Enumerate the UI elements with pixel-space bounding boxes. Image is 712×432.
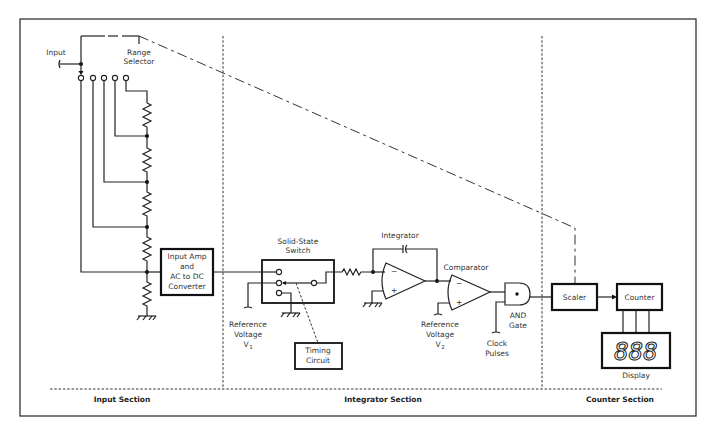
svg-text:+: + bbox=[391, 286, 397, 295]
display-digits: 888 bbox=[614, 338, 657, 366]
svg-text:Voltage: Voltage bbox=[426, 330, 455, 339]
section-label-counter: Counter Section bbox=[586, 395, 654, 404]
divider-resistor-2 bbox=[143, 136, 151, 182]
svg-text:Gate: Gate bbox=[509, 321, 527, 330]
solid-state-switch: Solid-State Switch bbox=[244, 237, 334, 317]
svg-text:Converter: Converter bbox=[168, 282, 206, 291]
svg-text:Reference: Reference bbox=[421, 320, 459, 329]
counter-block: Counter bbox=[617, 284, 662, 310]
svg-text:Clock: Clock bbox=[487, 339, 508, 348]
ground-icon bbox=[363, 303, 382, 307]
svg-text:Timing: Timing bbox=[304, 346, 331, 355]
svg-text:Circuit: Circuit bbox=[306, 356, 330, 365]
reference-voltage-v1: Reference Voltage V 1 bbox=[229, 320, 267, 350]
svg-text:−: − bbox=[456, 279, 462, 288]
svg-text:Display: Display bbox=[622, 371, 650, 380]
svg-text:Comparator: Comparator bbox=[444, 263, 490, 272]
input-terminal: Input bbox=[46, 48, 83, 68]
input-label: Input bbox=[46, 48, 65, 57]
range-contact-2 bbox=[90, 75, 95, 80]
integrator-opamp: Integrator − + bbox=[363, 231, 439, 307]
range-selector-label-2: Selector bbox=[124, 57, 156, 66]
divider-resistor-1 bbox=[143, 103, 151, 136]
svg-text:Counter: Counter bbox=[625, 293, 656, 302]
range-selector: Range Selector bbox=[78, 36, 155, 81]
svg-text:Pulses: Pulses bbox=[485, 349, 509, 358]
svg-text:2: 2 bbox=[441, 344, 445, 350]
ground-icon bbox=[137, 316, 156, 320]
svg-text:1: 1 bbox=[249, 344, 253, 350]
svg-text:Input Amp: Input Amp bbox=[167, 252, 206, 261]
svg-text:Reference: Reference bbox=[229, 320, 267, 329]
range-selector-label-1: Range bbox=[127, 48, 151, 57]
svg-text:−: − bbox=[391, 267, 397, 276]
diagram-frame bbox=[20, 19, 696, 416]
svg-text:AND: AND bbox=[510, 311, 527, 320]
voltage-divider bbox=[81, 81, 156, 320]
input-amp-block: Input Amp and AC to DC Converter bbox=[147, 249, 213, 295]
svg-text:Solid-State: Solid-State bbox=[278, 237, 319, 246]
dmm-block-diagram: Input Section Integrator Section Counter… bbox=[0, 0, 712, 432]
section-dividers bbox=[50, 36, 662, 389]
svg-text:AC to DC: AC to DC bbox=[170, 272, 204, 281]
svg-text:Switch: Switch bbox=[286, 246, 311, 255]
section-label-integrator: Integrator Section bbox=[344, 395, 422, 404]
comparator: Comparator − + Reference Voltage V 2 bbox=[421, 263, 505, 350]
display-block: 888 Display bbox=[602, 333, 670, 380]
scaler-block: Scaler bbox=[552, 284, 597, 310]
divider-resistor-4 bbox=[143, 227, 151, 272]
svg-text:+: + bbox=[456, 298, 462, 307]
range-contact-4 bbox=[112, 75, 117, 80]
svg-text:and: and bbox=[180, 262, 194, 271]
integrator-input-resistor bbox=[334, 269, 373, 275]
divider-resistor-3 bbox=[143, 182, 151, 227]
svg-text:Integrator: Integrator bbox=[381, 231, 419, 240]
range-contact-5 bbox=[123, 75, 128, 80]
divider-resistor-5 bbox=[143, 272, 151, 316]
range-contact-1 bbox=[78, 75, 83, 80]
section-label-input: Input Section bbox=[94, 395, 151, 404]
range-contact-3 bbox=[101, 75, 106, 80]
svg-text:Scaler: Scaler bbox=[563, 293, 587, 302]
ground-icon bbox=[281, 313, 300, 317]
svg-text:Voltage: Voltage bbox=[234, 330, 263, 339]
